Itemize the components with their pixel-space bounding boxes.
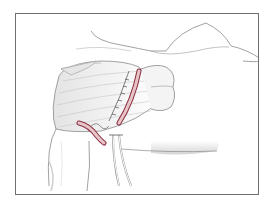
illustration-frame [15,13,259,195]
surgical-illustration [16,14,259,195]
chest-wall [121,141,219,155]
drain-tubes [109,135,131,186]
arm [48,129,89,191]
breast-contour [76,23,259,62]
